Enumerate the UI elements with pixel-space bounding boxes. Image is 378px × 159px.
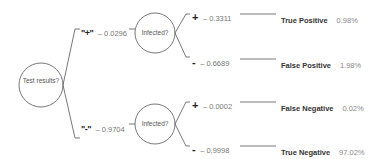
leaf-sign: + xyxy=(192,11,198,23)
upper-infected-label: Infected? xyxy=(142,29,169,36)
outcome-false-positive: False Positive 1.98% xyxy=(281,54,361,72)
branch-negative-probability: – 0.9704 xyxy=(95,125,124,134)
outcome-true-positive: True Positive 0.98% xyxy=(281,9,358,27)
lower-infected-node: Infected? xyxy=(135,120,175,128)
outcome-true-negative: True Negative 97.02% xyxy=(281,141,365,159)
leaf-sign: + xyxy=(192,99,198,111)
outcome-label: True Positive xyxy=(281,16,328,25)
outcome-percent: 0.98% xyxy=(337,16,358,25)
leaf-probability: – 0.0002 xyxy=(203,102,232,111)
outcome-percent: 0.02% xyxy=(342,104,363,113)
root-node-label: Test results? xyxy=(23,77,60,84)
leaf-true-positive: + – 0.3311 xyxy=(192,7,232,25)
outcome-label: False Negative xyxy=(281,104,334,113)
outcome-label: True Negative xyxy=(281,148,330,157)
branch-positive: "+" – 0.0296 xyxy=(81,22,127,40)
branch-positive-sign: "+" xyxy=(81,28,93,38)
upper-infected-node: Infected? xyxy=(135,29,175,37)
leaf-sign: - xyxy=(192,56,196,68)
leaf-probability: – 0.6689 xyxy=(200,59,229,68)
outcome-label: False Positive xyxy=(281,61,331,70)
leaf-probability: – 0.3311 xyxy=(203,14,232,23)
leaf-sign: - xyxy=(192,143,196,155)
root-node-circle xyxy=(19,63,63,107)
root-node: Test results? xyxy=(22,77,60,85)
branch-negative: "-" – 0.9704 xyxy=(81,118,125,136)
lower-infected-label: Infected? xyxy=(142,120,169,127)
leaf-true-negative: - – 0.9998 xyxy=(192,139,229,157)
leaf-false-negative: + – 0.0002 xyxy=(192,95,232,113)
leaf-false-positive: - – 0.6689 xyxy=(192,52,229,70)
branch-negative-sign: "-" xyxy=(81,124,91,134)
outcome-percent: 1.98% xyxy=(340,61,361,70)
outcome-false-negative: False Negative 0.02% xyxy=(281,97,364,115)
branch-positive-probability: – 0.0296 xyxy=(98,29,127,38)
outcome-percent: 97.02% xyxy=(339,148,364,157)
leaf-probability: – 0.9998 xyxy=(200,146,229,155)
